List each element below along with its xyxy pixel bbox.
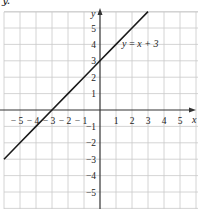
coordinate-plane: xy− 5− 4− 3− 2− 11234554321−1−2−3−4−5y =…	[0, 0, 198, 209]
y-tick-label: 1	[91, 89, 96, 99]
x-tick-label: − 3	[43, 116, 56, 126]
y-tick-label: 4	[91, 40, 96, 50]
x-tick-label: − 4	[27, 116, 40, 126]
axes	[0, 8, 196, 209]
x-tick-label: − 5	[11, 116, 24, 126]
x-axis-arrow-icon	[189, 108, 196, 113]
x-axis-label: x	[191, 114, 197, 125]
y-tick-label: −4	[86, 171, 96, 181]
y-tick-label: 3	[91, 56, 96, 66]
y-axis-label: y	[90, 8, 96, 19]
y-tick-label: 5	[91, 24, 96, 34]
line-y-equals-x-plus-3	[4, 12, 148, 160]
tick-labels: xy− 5− 4− 3− 2− 11234554321−1−2−3−4−5y =…	[11, 8, 197, 198]
y-tick-label: −2	[86, 138, 96, 148]
x-tick-label: 1	[114, 116, 119, 126]
y-tick-label: −1	[86, 122, 96, 132]
y-tick-label: −3	[86, 155, 96, 165]
x-tick-label: 4	[162, 116, 167, 126]
x-tick-label: 3	[146, 116, 151, 126]
line-equation-annotation: y = x + 3	[121, 38, 158, 49]
line-series	[4, 12, 148, 160]
y-tick-label: 2	[91, 73, 96, 83]
x-tick-label: 5	[178, 116, 183, 126]
x-tick-label: − 2	[59, 116, 72, 126]
x-tick-label: 2	[130, 116, 135, 126]
y-tick-label: −5	[86, 188, 96, 198]
